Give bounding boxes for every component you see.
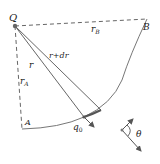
label-B: B	[142, 22, 150, 32]
label-rB: rB	[91, 24, 100, 35]
label-theta: θ	[136, 129, 142, 139]
Q-point	[13, 24, 17, 28]
ds-segment	[84, 110, 101, 117]
path-curve	[22, 19, 147, 129]
line-r-plus-dr	[15, 26, 101, 110]
label-r: r	[29, 60, 34, 70]
label-r-plus-dr: r+dr	[49, 51, 70, 60]
dashed-line-rB	[15, 19, 147, 26]
q0-arrow	[84, 117, 94, 127]
label-q0: q0	[73, 122, 83, 133]
diagram-canvas: Q B A r r+dr rA rB q0 θ	[0, 0, 160, 164]
label-A: A	[24, 118, 31, 127]
q0-point	[82, 115, 85, 118]
label-Q: Q	[9, 12, 17, 23]
label-rA: rA	[20, 76, 29, 87]
line-r	[15, 26, 84, 117]
